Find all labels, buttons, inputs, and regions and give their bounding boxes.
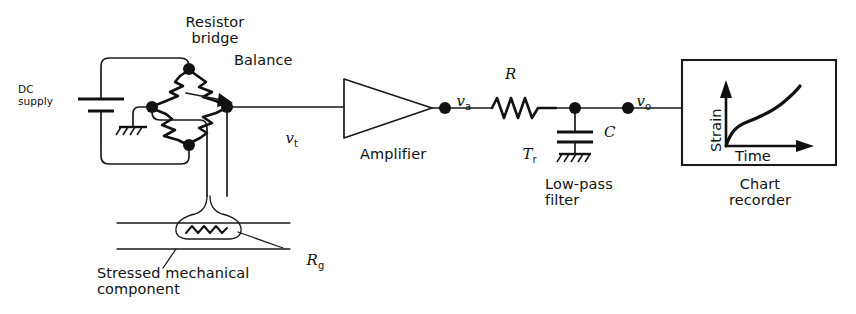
signal-va-subscript: a xyxy=(465,101,471,112)
signal-va: va xyxy=(437,76,471,129)
node-filter-junction xyxy=(569,102,581,114)
amplifier-label: Amplifier xyxy=(360,146,426,162)
balance-label: Balance xyxy=(234,52,293,68)
signal-vt: vt xyxy=(266,113,298,166)
bridge-ground-symbol xyxy=(116,107,152,135)
low-pass-filter-label: Low-pass filter xyxy=(545,176,613,208)
signal-vo: vo xyxy=(617,76,651,129)
signal-vo-subscript: o xyxy=(645,101,651,112)
filter-capacitor xyxy=(557,108,593,162)
resistor-bridge xyxy=(146,63,233,151)
bridge-node-top xyxy=(183,63,195,75)
time-constant-symbol: T xyxy=(522,145,532,163)
gauge-resistance-subscript: g xyxy=(318,260,324,271)
signal-vt-subscript: t xyxy=(294,138,298,149)
resistor-r-label: R xyxy=(505,66,516,83)
chart-ylabel: Strain xyxy=(708,108,724,152)
strain-gauge-system-diagram: DC supply Resistor bridge Balance vt Amp… xyxy=(0,0,856,314)
signal-vo-symbol: v xyxy=(636,92,645,110)
chart-recorder-label: Chart recorder xyxy=(700,176,820,208)
bridge-node-bottom xyxy=(183,139,195,151)
amplifier-symbol xyxy=(344,79,432,138)
resistor-bridge-label: Resistor bridge xyxy=(160,14,270,46)
signal-vt-symbol: v xyxy=(285,129,294,147)
dc-supply-label: DC supply xyxy=(18,84,53,108)
strain-gauge xyxy=(176,196,283,248)
stressed-component-label: Stressed mechanical component xyxy=(97,265,249,297)
time-constant-subscript: r xyxy=(533,154,537,165)
gauge-resistance-symbol: R xyxy=(306,251,317,269)
time-constant-label: Tr xyxy=(503,129,537,182)
capacitor-c-label: C xyxy=(604,124,616,141)
chart-xlabel: Time xyxy=(735,148,771,164)
gauge-resistance-label: Rg xyxy=(287,235,324,288)
signal-va-symbol: v xyxy=(456,92,465,110)
filter-resistor xyxy=(492,98,556,118)
